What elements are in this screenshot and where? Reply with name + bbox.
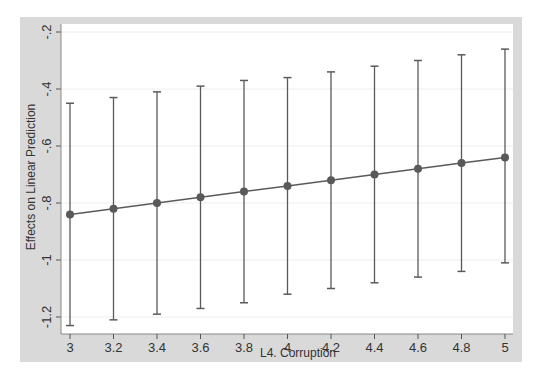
data-point-marker [414,165,422,173]
y-tick-label: -.8 [39,195,54,210]
y-axis-label: Effects on Linear Prediction [24,104,38,251]
x-tick-label: 3.8 [235,340,253,355]
x-tick-label: 3.6 [191,340,209,355]
data-point-marker [153,199,161,207]
y-tick-label: -.6 [39,138,54,153]
data-point-marker [327,176,335,184]
x-tick-label: 3 [66,340,73,355]
x-tick-label: 4.4 [365,340,383,355]
x-axis-label: L4. Corruption [260,346,336,360]
chart-panel: -.2-.4-.6-.8-1-1.233.23.43.63.844.24.44.… [20,17,522,362]
data-point-marker [240,188,248,196]
y-tick-label: -1 [39,254,54,266]
data-point-marker [197,193,205,201]
data-point-marker [501,153,509,161]
x-tick-label: 4.8 [452,340,470,355]
y-tick-label: -1.2 [39,306,54,328]
data-point-marker [110,205,118,213]
data-point-marker [66,210,74,218]
data-point-marker [371,171,379,179]
data-point-marker [458,159,466,167]
y-tick-label: -.4 [39,81,54,96]
x-tick-label: 5 [501,340,508,355]
data-point-marker [284,182,292,190]
chart-svg: -.2-.4-.6-.8-1-1.233.23.43.63.844.24.44.… [20,17,522,362]
x-tick-label: 3.2 [104,340,122,355]
y-tick-label: -.2 [39,24,54,39]
x-tick-label: 3.4 [148,340,166,355]
x-tick-label: 4.6 [409,340,427,355]
